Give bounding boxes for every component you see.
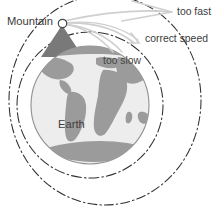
label-correct-speed: correct speed	[145, 34, 208, 44]
newtons-cannonball-diagram	[0, 0, 218, 211]
trajectory-too-fast	[64, 11, 172, 21]
label-too-slow: too slow	[103, 56, 141, 66]
label-earth: Earth	[58, 119, 85, 130]
diagram-canvas: Mountain too fast correct speed too slow…	[0, 0, 218, 211]
launch-point-marker	[58, 19, 66, 27]
label-mountain: Mountain	[7, 16, 53, 27]
label-too-fast: too fast	[177, 7, 211, 17]
